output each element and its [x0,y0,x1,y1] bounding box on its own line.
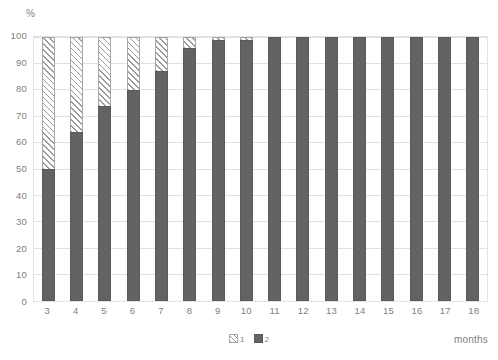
bar-segment-series-1[interactable] [70,37,83,132]
bar-segment-series-2[interactable] [42,169,55,301]
stacked-bar[interactable] [155,37,168,301]
y-axis-tick: 40 [16,191,27,201]
bar-slot [345,37,373,301]
legend-item[interactable]: 2 [254,333,269,344]
legend-item[interactable]: 1 [229,333,244,344]
stacked-bar[interactable] [70,37,83,301]
bar-segment-series-1[interactable] [127,37,140,90]
y-axis-unit-label: % [26,8,35,19]
bar-slot [402,37,430,301]
x-axis-tick: 10 [232,305,260,316]
bar-segment-series-1[interactable] [155,37,168,71]
bar-slot [374,37,402,301]
legend-label: 1 [240,333,244,344]
stacked-bar[interactable] [127,37,140,301]
bar-segment-series-2[interactable] [183,48,196,301]
chart-container: % 0102030405060708090100 345678910111213… [0,0,498,360]
x-axis-tick: 7 [147,305,175,316]
stacked-bar[interactable] [325,37,338,301]
bar-slot [204,37,232,301]
bar-segment-series-2[interactable] [155,71,168,301]
bar-segment-series-2[interactable] [127,90,140,301]
stacked-bar[interactable] [268,37,281,301]
y-axis-tick: 80 [16,84,27,94]
x-axis-tick: 16 [403,305,431,316]
bar-segment-series-2[interactable] [325,37,338,301]
x-axis-tick: 17 [431,305,459,316]
bar-slot [119,37,147,301]
x-axis-tick-labels: 3456789101112131415161718 [33,305,488,316]
bar-segment-series-2[interactable] [438,37,451,301]
y-axis-tick: 10 [16,271,27,281]
bar-slot [147,37,175,301]
bar-slot [176,37,204,301]
legend-swatch-solid-icon [254,334,263,343]
bar-segment-series-2[interactable] [70,132,83,301]
legend-label: 2 [265,333,269,344]
x-axis-tick: 13 [317,305,345,316]
stacked-bar[interactable] [381,37,394,301]
bar-segment-series-2[interactable] [240,40,253,301]
bar-segment-series-1[interactable] [183,37,196,48]
x-axis-tick: 14 [346,305,374,316]
bar-slot [261,37,289,301]
bar-segment-series-2[interactable] [212,40,225,301]
y-axis-tick: 0 [22,297,27,307]
x-axis-tick: 18 [460,305,488,316]
y-axis-tick: 90 [16,58,27,68]
plot-area [33,36,488,302]
bar-segment-series-2[interactable] [98,106,111,301]
y-axis-tick: 70 [16,111,27,121]
x-axis-tick: 3 [33,305,61,316]
bar-segment-series-2[interactable] [410,37,423,301]
y-axis-tick-labels: 0102030405060708090100 [0,36,31,302]
bar-slot [459,37,487,301]
x-axis-tick: 8 [175,305,203,316]
x-axis-tick: 12 [289,305,317,316]
bar-segment-series-2[interactable] [353,37,366,301]
legend-swatch-hatch-icon [229,334,238,343]
stacked-bar[interactable] [296,37,309,301]
bar-segment-series-1[interactable] [98,37,111,106]
bar-slot [430,37,458,301]
stacked-bar[interactable] [212,37,225,301]
bar-slot [232,37,260,301]
x-axis-tick: 4 [61,305,89,316]
stacked-bar[interactable] [438,37,451,301]
bar-segment-series-2[interactable] [381,37,394,301]
bar-segment-series-2[interactable] [268,37,281,301]
stacked-bar[interactable] [410,37,423,301]
x-axis-tick: 6 [118,305,146,316]
bar-segment-series-2[interactable] [466,37,479,301]
stacked-bar[interactable] [98,37,111,301]
stacked-bar[interactable] [353,37,366,301]
bar-slot [317,37,345,301]
bar-slot [91,37,119,301]
bar-segment-series-1[interactable] [42,37,55,169]
x-axis-tick: 15 [374,305,402,316]
y-axis-tick: 30 [16,217,27,227]
y-axis-tick: 50 [16,164,27,174]
x-axis-title: months [454,334,488,345]
stacked-bar[interactable] [466,37,479,301]
bar-slot [34,37,62,301]
stacked-bar[interactable] [240,37,253,301]
y-axis-tick: 100 [11,31,27,41]
y-axis-tick: 60 [16,138,27,148]
x-axis-tick: 9 [204,305,232,316]
stacked-bar[interactable] [183,37,196,301]
stacked-bar[interactable] [42,37,55,301]
bar-slot [62,37,90,301]
x-axis-tick: 5 [90,305,118,316]
x-axis-tick: 11 [261,305,289,316]
y-axis-tick: 20 [16,244,27,254]
bar-segment-series-2[interactable] [296,37,309,301]
bar-slot [289,37,317,301]
chart-legend: 12 [0,333,498,344]
bar-series-group [34,37,487,301]
